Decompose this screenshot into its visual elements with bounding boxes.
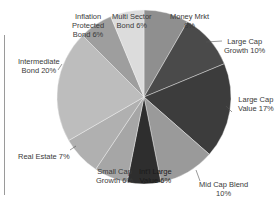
slice-label-line: Value 6% bbox=[139, 176, 172, 185]
slice-label-large-cap-value: Large CapValue 17% bbox=[238, 95, 274, 113]
slice-label-line: Large Cap bbox=[224, 37, 265, 46]
slice-label-line: Real Estate 7% bbox=[18, 152, 70, 161]
slice-label-large-cap-growth: Large CapGrowth 10% bbox=[224, 37, 265, 55]
slice-label-line: Inflation bbox=[72, 12, 104, 21]
slice-label-money-mrkt: Money Mrkt8% bbox=[170, 12, 209, 30]
slice-label-line: Value 17% bbox=[238, 104, 274, 113]
slice-label-multi-sector-bond: Multi SectorBond 6% bbox=[112, 12, 152, 30]
slice-label-line: Mid Cap Blend bbox=[199, 180, 248, 189]
slice-label-real-estate: Real Estate 7% bbox=[18, 152, 70, 161]
slice-label-intermediate-bond: IntermediateBond 20% bbox=[18, 57, 60, 75]
slice-label-line: Protected bbox=[72, 21, 104, 30]
slice-label-line: Intermediate bbox=[18, 57, 60, 66]
slice-label-line: Growth 10% bbox=[224, 46, 265, 55]
slice-label-line: Large Cap bbox=[238, 95, 274, 104]
slice-label-line: Int'l Large bbox=[139, 167, 172, 176]
slice-label-line: Bond 20% bbox=[18, 66, 60, 75]
slice-label-intl-large-value: Int'l LargeValue 6% bbox=[139, 167, 172, 185]
slice-label-line: Money Mrkt bbox=[170, 12, 209, 21]
slice-label-inflation-protected-bond: InflationProtectedBond 6% bbox=[72, 12, 104, 39]
slice-label-line: Bond 6% bbox=[112, 21, 152, 30]
slice-label-line: 10% bbox=[199, 189, 248, 198]
slice-label-line: Multi Sector bbox=[112, 12, 152, 21]
slice-label-small-cap-growth: Small CapGrowth 6% bbox=[96, 167, 133, 185]
slice-label-line: Small Cap bbox=[96, 167, 133, 176]
slice-label-mid-cap-blend: Mid Cap Blend10% bbox=[199, 180, 248, 198]
slice-label-line: Bond 6% bbox=[72, 30, 104, 39]
slice-label-line: Growth 6% bbox=[96, 176, 133, 185]
slice-label-line: 8% bbox=[170, 21, 209, 30]
